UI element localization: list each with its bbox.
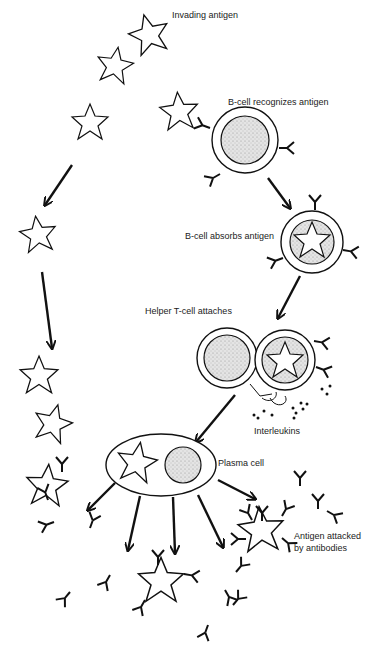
label-antigen-attacked-1: Antigen attacked: [294, 531, 361, 542]
plasma-cell: [106, 434, 216, 496]
antigen-star-group-top: [72, 10, 173, 139]
label-invading-antigen: Invading antigen: [172, 10, 238, 21]
left-column-path: [18, 165, 76, 506]
arrow-absorb-to-helper: [278, 276, 300, 318]
helper-t-cell-complex: [197, 328, 332, 405]
label-helper-t-cell: Helper T-cell attaches: [145, 306, 232, 317]
label-b-cell-absorbs: B-cell absorbs antigen: [185, 231, 274, 242]
antigen-attacked-bottom: [132, 550, 200, 616]
arrow-recognize-to-absorb: [268, 178, 290, 208]
b-cell-absorbing: [267, 195, 359, 273]
label-plasma-cell: Plasma cell: [218, 458, 264, 469]
label-antigen-attacked-2: by antibodies: [294, 543, 347, 554]
arrow-helper-to-plasma: [196, 395, 235, 442]
immune-response-diagram: Invading antigen B-cell recognizes antig…: [0, 0, 387, 645]
label-interleukins: Interleukins: [254, 426, 300, 437]
label-b-cell-recognizes: B-cell recognizes antigen: [228, 97, 329, 108]
